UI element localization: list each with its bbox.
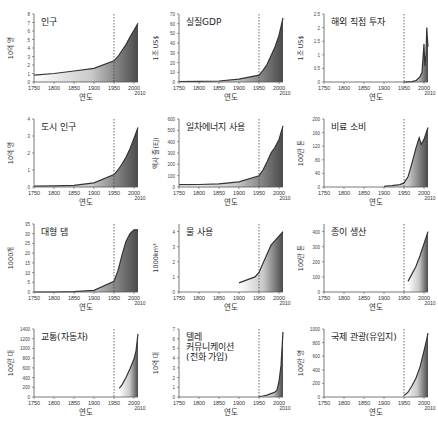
- y-tick-label: 800: [312, 341, 320, 346]
- x-tick-label: 1850: [68, 85, 80, 91]
- y-tick-label: 400: [167, 140, 175, 145]
- y-tick-label: 1: [172, 385, 175, 390]
- y-tick-label: 3: [172, 366, 175, 371]
- y-axis-label: 1000개: [6, 247, 15, 270]
- y-tick-label: 100: [167, 174, 175, 179]
- x-tick-label: 1900: [378, 295, 390, 301]
- chart-panel: 012341750180018501900195020002010연도1000k…: [145, 210, 291, 316]
- x-tick-label: 1800: [338, 190, 350, 196]
- x-tick-label: 1850: [358, 400, 370, 406]
- x-tick-label: 1750: [28, 400, 40, 406]
- x-axis-label: 연도: [224, 93, 238, 102]
- area-fill: [179, 126, 283, 187]
- x-axis-label: 연도: [224, 303, 238, 312]
- y-tick-label: 25: [25, 241, 31, 246]
- x-axis-label: 연도: [79, 408, 93, 417]
- y-tick-label: 3: [27, 55, 30, 60]
- x-tick-label: 1950: [253, 295, 265, 301]
- y-tick-label: 300: [312, 245, 320, 250]
- y-tick-label: 40: [170, 41, 176, 46]
- y-tick-label: 4: [172, 230, 175, 235]
- y-tick-label: 500: [167, 128, 175, 133]
- y-tick-label: 1000: [20, 346, 31, 351]
- x-tick-label: 1950: [108, 85, 120, 91]
- panel-title: 비료 소비: [331, 122, 366, 132]
- x-tick-label: 1850: [68, 190, 80, 196]
- chart-grid: 0123456781750180018501900195020002010연도1…: [0, 0, 438, 430]
- panel-title: 물 사용: [186, 227, 213, 237]
- y-tick-label: 2.5: [314, 12, 321, 17]
- x-tick-label: 1850: [68, 295, 80, 301]
- panel-title: 국제 관광(유입지): [331, 331, 397, 342]
- y-tick-label: 35: [25, 222, 31, 227]
- y-tick-label: 1: [27, 168, 30, 173]
- y-tick-label: 2: [27, 63, 30, 68]
- x-tick-label: 1900: [378, 85, 390, 91]
- x-tick-label: 1750: [28, 295, 40, 301]
- chart-panel: 0102030405060701750180018501900195020002…: [145, 0, 291, 106]
- y-tick-label: 6: [172, 337, 175, 342]
- x-tick-label: 1750: [173, 85, 185, 91]
- x-tick-label: 1800: [193, 190, 205, 196]
- y-tick-label: 3: [27, 134, 30, 139]
- y-tick-label: 100: [312, 275, 320, 280]
- x-axis-label: 연도: [224, 198, 238, 207]
- y-axis-label: 100만 대: [6, 350, 15, 376]
- x-tick-label: 1800: [48, 190, 60, 196]
- y-tick-label: 5: [27, 280, 30, 285]
- panel-title: 커뮤니케이션: [186, 342, 234, 352]
- x-tick-label: 1850: [213, 400, 225, 406]
- chart-panel: 0100200300400175018001850190019502000201…: [290, 210, 436, 316]
- y-tick-label: 600: [22, 366, 30, 371]
- panel-title: 해외 직접 투자: [331, 16, 386, 27]
- x-tick-label: 1950: [253, 85, 265, 91]
- x-tick-label: 1900: [378, 190, 390, 196]
- y-tick-label: 200: [167, 162, 175, 167]
- y-axis-label: 1조 US$: [297, 35, 305, 60]
- y-tick-label: 200: [312, 260, 320, 265]
- x-tick-label: 1800: [48, 295, 60, 301]
- x-tick-label: 1900: [88, 190, 100, 196]
- x-axis-label: 연도: [79, 93, 93, 102]
- y-tick-label: 40: [315, 171, 321, 176]
- x-tick-label: 1850: [213, 190, 225, 196]
- area-fill: [34, 128, 138, 188]
- x-tick-label: 1950: [398, 295, 410, 301]
- y-axis-label: 1000km³: [152, 243, 160, 273]
- y-tick-label: 3: [172, 245, 175, 250]
- y-tick-label: 300: [167, 151, 175, 156]
- x-tick-label: 1800: [338, 85, 350, 91]
- y-axis-label: 10억 대: [152, 352, 160, 374]
- x-tick-label: 1750: [28, 190, 40, 196]
- x-tick-label: 1950: [108, 190, 120, 196]
- area-fill: [239, 232, 283, 292]
- y-tick-label: 7: [172, 327, 175, 332]
- x-tick-label: 1950: [398, 400, 410, 406]
- area-fill: [119, 334, 138, 397]
- x-tick-label-extra: 2010: [424, 90, 435, 96]
- chart-panel: 0408012016020017501800185019001950200020…: [290, 105, 436, 211]
- area-fill: [384, 128, 428, 188]
- x-axis-label: 연도: [369, 198, 383, 207]
- area-fill: [404, 333, 428, 397]
- y-tick-label: 2: [27, 151, 30, 156]
- x-tick-label: 1900: [88, 400, 100, 406]
- x-tick-label: 1950: [108, 400, 120, 406]
- y-tick-label: 400: [312, 230, 320, 235]
- y-tick-label: 60: [170, 22, 176, 27]
- x-axis-label: 연도: [369, 408, 383, 417]
- x-tick-label: 1900: [88, 85, 100, 91]
- x-tick-label: 1800: [338, 400, 350, 406]
- x-tick-label: 1900: [233, 400, 245, 406]
- y-tick-label: 10: [170, 70, 176, 75]
- x-tick-label: 1950: [253, 190, 265, 196]
- y-axis-label: 10억 명: [6, 142, 15, 164]
- y-tick-label: 4: [172, 356, 175, 361]
- y-tick-label: 1000: [310, 327, 321, 332]
- y-tick-label: 80: [315, 158, 321, 163]
- y-tick-label: 20: [25, 251, 31, 256]
- panel-title: 도시 인구: [41, 122, 76, 132]
- y-tick-label: 200: [22, 385, 30, 390]
- x-axis-label: 연도: [79, 198, 93, 207]
- x-tick-label: 1750: [318, 400, 330, 406]
